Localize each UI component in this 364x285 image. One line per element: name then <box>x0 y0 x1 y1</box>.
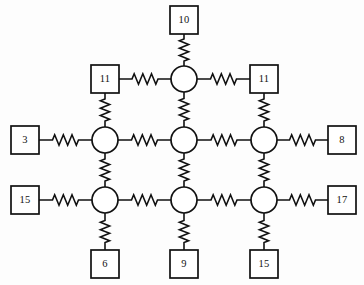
resistor-middle-horizontal-right <box>197 135 251 145</box>
terminal-box-right-bottom-label: 17 <box>337 194 348 205</box>
circuit-canvas: 1011113815176915 <box>0 0 364 285</box>
resistor-bottom-horizontal-right <box>197 195 251 205</box>
resistor-bottom-horizontal-left <box>118 195 171 205</box>
resistor-right-column-vertical <box>259 153 268 187</box>
circuit-diagram: 1011113815176915 <box>0 0 364 285</box>
terminal-box-bottom-center[interactable]: 9 <box>170 250 198 278</box>
resistor-top-to-node-top <box>179 34 188 66</box>
resistor-center-vertical-upper <box>179 92 188 127</box>
terminal-box-bottom-left[interactable]: 6 <box>91 250 119 278</box>
resistor-bottom-left-vertical <box>100 213 109 250</box>
terminal-box-upper-right-label: 11 <box>259 73 270 84</box>
terminal-box-bottom-right-label: 15 <box>259 258 270 269</box>
terminal-box-left-middle-label: 3 <box>22 134 27 145</box>
terminal-box-upper-right[interactable]: 11 <box>250 65 278 93</box>
resistor-middle-horizontal-left <box>118 135 171 145</box>
terminal-box-top-label: 10 <box>179 14 190 25</box>
resistor-right-middle-horizontal <box>277 135 328 145</box>
node-mid-left[interactable] <box>92 127 118 153</box>
resistor-left-bottom-horizontal <box>39 195 92 205</box>
resistor-center-column-vertical <box>179 153 188 187</box>
terminal-box-left-middle[interactable]: 3 <box>11 126 39 154</box>
resistor-bottom-center-vertical <box>179 213 188 250</box>
terminal-box-right-bottom[interactable]: 17 <box>328 186 356 214</box>
resistor-upper-left-vertical <box>100 93 109 127</box>
terminal-box-right-middle[interactable]: 8 <box>328 126 356 154</box>
terminal-box-bottom-right[interactable]: 15 <box>250 250 278 278</box>
node-mid-center[interactable] <box>171 127 197 153</box>
resistor-bottom-right-vertical <box>259 213 268 250</box>
terminal-box-top[interactable]: 10 <box>170 6 198 34</box>
terminal-box-left-bottom-label: 15 <box>20 194 31 205</box>
resistor-left-column-vertical <box>100 153 109 187</box>
node-top[interactable] <box>171 66 197 92</box>
node-bottom-left[interactable] <box>92 187 118 213</box>
resistor-upper-right-horizontal <box>197 74 250 84</box>
node-bottom-center[interactable] <box>171 187 197 213</box>
terminal-box-upper-left-label: 11 <box>100 73 111 84</box>
resistor-upper-right-vertical <box>259 93 268 127</box>
terminal-box-bottom-center-label: 9 <box>181 258 186 269</box>
resistor-left-middle-horizontal <box>39 135 92 145</box>
terminal-box-left-bottom[interactable]: 15 <box>11 186 39 214</box>
node-bottom-right[interactable] <box>251 187 277 213</box>
terminal-box-upper-left[interactable]: 11 <box>91 65 119 93</box>
terminal-box-right-middle-label: 8 <box>339 134 344 145</box>
resistor-right-bottom-horizontal <box>277 195 328 205</box>
resistor-upper-left-horizontal <box>119 74 171 84</box>
terminal-box-bottom-left-label: 6 <box>102 258 107 269</box>
node-mid-right[interactable] <box>251 127 277 153</box>
